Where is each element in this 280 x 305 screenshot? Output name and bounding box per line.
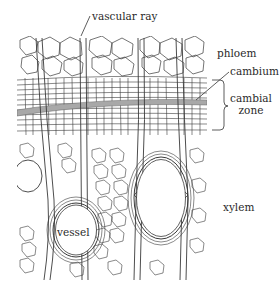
vascular-ray-leader	[81, 16, 90, 36]
label-cambial-zone-line2: zone	[230, 104, 272, 116]
label-xylem: xylem	[223, 201, 254, 213]
label-vascular-ray: vascular ray	[92, 10, 157, 22]
vessel-left-partial	[14, 160, 42, 192]
diagram-illustration	[0, 0, 280, 305]
label-vessel: vessel	[57, 226, 90, 238]
label-phloem: phloem	[217, 47, 256, 59]
cambial-zone-brace	[212, 80, 228, 130]
label-cambial-zone-line1: cambial	[230, 92, 272, 104]
label-cambial-zone: cambial zone	[230, 92, 272, 116]
wood-cross-section-diagram: vascular ray phloem cambium cambial zone…	[0, 0, 280, 305]
label-cambium: cambium	[230, 65, 279, 77]
